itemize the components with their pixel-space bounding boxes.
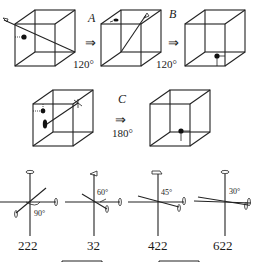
- axis-group-622: 30°: [194, 170, 251, 236]
- step-b-angle: 120°: [156, 58, 177, 70]
- axis-group-422: 45°: [128, 171, 185, 236]
- cube-2: [101, 10, 161, 66]
- step-a-arrow: ⇒: [85, 35, 96, 50]
- step-c-angle: 180°: [112, 127, 133, 139]
- axis-group-222: 90°: [0, 170, 57, 236]
- step-c-label: C: [118, 92, 127, 106]
- step-a-angle: 120°: [73, 58, 94, 70]
- cube-4: [33, 90, 93, 146]
- step-b-arrow: ⇒: [168, 35, 179, 50]
- cube-1: [3, 10, 75, 66]
- step-a-label: A: [87, 11, 96, 25]
- axis-32-angle: 60°: [97, 188, 108, 197]
- axis-422-angle: 45°: [161, 188, 172, 197]
- cube-5: [150, 90, 210, 146]
- axis-group-32: 60°: [65, 171, 121, 236]
- axis-622-angle: 30°: [229, 187, 240, 196]
- axis-32-name: 32: [87, 238, 100, 253]
- axis-422-name: 422: [148, 238, 168, 253]
- step-c-arrow: ⇒: [115, 112, 126, 127]
- symmetry-diagram: A ⇒ 120° B ⇒ 120°: [0, 0, 253, 262]
- cube-3: [185, 10, 245, 66]
- axis-222-angle: 90°: [34, 209, 45, 218]
- axis-622-name: 622: [213, 238, 233, 253]
- axis-222-name: 222: [18, 238, 38, 253]
- step-b-label: B: [169, 7, 177, 21]
